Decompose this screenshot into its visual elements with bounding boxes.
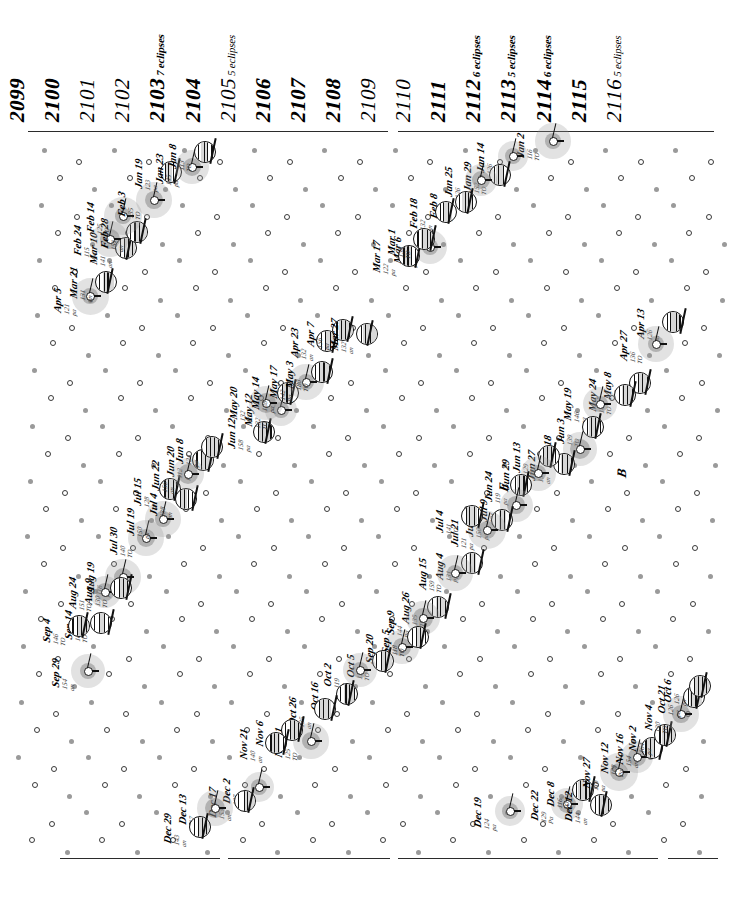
shadow-hatch: [567, 453, 568, 475]
new-moon-dot: [526, 313, 531, 318]
eclipse-label: Apr 7156pa: [306, 321, 330, 350]
eclipse-type-code: TO: [59, 621, 66, 646]
full-moon-dot: [411, 545, 417, 551]
new-moon-dot: [646, 810, 651, 815]
shadow-hatch: [642, 372, 643, 394]
eclipse-type-code: TO: [636, 334, 643, 365]
axis-tick: [94, 295, 101, 296]
full-moon-dot: [249, 616, 255, 622]
new-moon-dot: [137, 794, 142, 799]
full-moon-dot: [179, 616, 185, 622]
full-moon-dot: [694, 490, 700, 496]
shadow-hatch: [238, 790, 239, 812]
year-label: 2113: [496, 76, 520, 124]
axis-tick: [517, 155, 524, 156]
full-moon-dot: [420, 325, 426, 331]
full-moon-dot: [207, 380, 213, 386]
new-moon-dot: [701, 739, 706, 744]
new-moon-dot: [437, 755, 442, 760]
full-moon-dot: [416, 435, 422, 441]
year-eclipse-count: 7 eclipses: [155, 33, 166, 80]
new-moon-dot: [432, 463, 437, 468]
full-moon-dot: [116, 451, 122, 457]
full-moon-dot: [455, 727, 461, 733]
year-label: 2099: [5, 75, 29, 124]
shadow-hatch: [290, 719, 291, 741]
new-moon-dot: [83, 408, 88, 413]
new-moon-dot: [556, 850, 561, 855]
full-moon-dot: [661, 837, 667, 843]
new-moon-dot: [373, 187, 378, 192]
eclipse-label: Nov 21140an: [239, 728, 263, 764]
full-moon-dot: [548, 175, 554, 181]
shadow-hatch: [474, 505, 475, 527]
new-moon-dot: [112, 148, 117, 153]
full-moon-dot: [57, 175, 63, 181]
new-moon-dot: [30, 424, 35, 429]
full-moon-dot: [618, 175, 624, 181]
new-moon-dot: [488, 794, 493, 799]
new-moon-dot: [577, 353, 582, 358]
axis-tick: [434, 246, 441, 247]
full-moon-dot: [240, 837, 246, 843]
full-moon-dot: [616, 230, 622, 236]
new-moon-dot: [515, 589, 520, 594]
new-moon-dot: [275, 850, 280, 855]
shadow-hatch: [104, 271, 105, 293]
full-moon-dot: [50, 340, 56, 346]
full-moon-dot: [534, 506, 540, 512]
shadow-hatch: [319, 698, 320, 720]
new-moon-dot: [439, 298, 444, 303]
year-label: 2100: [40, 75, 64, 124]
shadow-hatch: [381, 650, 382, 672]
new-moon-dot: [463, 148, 468, 153]
new-moon-dot: [587, 534, 592, 539]
eclipse-label: Dec 12144an: [564, 790, 588, 825]
new-moon-dot: [582, 644, 587, 649]
new-moon-dot: [177, 258, 182, 263]
full-moon-dot: [214, 214, 220, 220]
full-moon-dot: [469, 395, 475, 401]
eclipse-type-code: pa: [680, 682, 687, 706]
full-moon-dot: [343, 490, 349, 496]
new-moon-dot: [645, 408, 650, 413]
full-moon-dot: [36, 671, 42, 677]
eclipse-plot-area: Sep 29154anSep 14161TOSep 4146TOAug 1911…: [0, 128, 740, 868]
full-moon-dot: [677, 451, 683, 457]
full-moon-dot: [399, 395, 405, 401]
full-moon-dot: [254, 506, 260, 512]
new-moon-dot: [357, 574, 362, 579]
new-moon-dot: [322, 148, 327, 153]
new-moon-dot: [366, 353, 371, 358]
new-moon-dot: [161, 644, 166, 649]
full-moon-dot: [703, 269, 709, 275]
full-moon-dot: [135, 435, 141, 441]
year-column-2116: 2116 5 eclipses: [625, 0, 660, 128]
full-moon-dot: [357, 159, 363, 165]
full-moon-dot: [402, 766, 408, 772]
full-moon-dot: [624, 490, 630, 496]
full-moon-dot: [280, 325, 286, 331]
eclipse-label: Apr 27136TO: [619, 330, 643, 365]
full-moon-dot: [261, 340, 267, 346]
moon-disc: [407, 626, 429, 648]
new-moon-dot: [219, 518, 224, 523]
new-moon-dot: [154, 810, 159, 815]
full-moon-dot: [619, 601, 625, 607]
full-moon-dot: [348, 380, 354, 386]
full-moon-dot: [457, 671, 463, 677]
new-moon-dot: [250, 203, 255, 208]
axis-tick: [685, 713, 692, 714]
eclipse-label: Mar 27132an: [330, 317, 354, 354]
new-moon-dot: [423, 684, 428, 689]
new-moon-dot: [86, 755, 91, 760]
shadow-hatch: [555, 445, 556, 467]
shadow-hatch: [294, 719, 295, 741]
full-moon-dot: [558, 380, 564, 386]
new-moon-dot: [374, 589, 379, 594]
full-moon-dot: [74, 214, 80, 220]
new-moon-dot: [722, 242, 727, 247]
year-label: 2101: [75, 75, 99, 124]
new-moon-dot: [311, 424, 316, 429]
full-moon-dot: [675, 506, 681, 512]
